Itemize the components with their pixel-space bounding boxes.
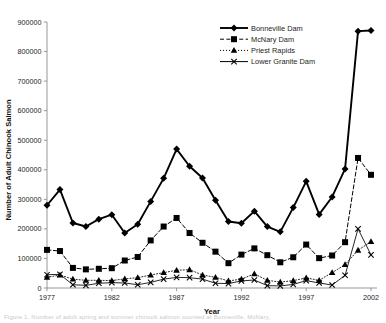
x-tick-label: 1997	[298, 293, 314, 302]
data-point	[57, 248, 63, 254]
data-point	[148, 237, 154, 243]
data-point	[174, 215, 180, 221]
data-point	[225, 260, 231, 266]
data-point	[303, 242, 309, 248]
y-tick-label: 300000	[18, 195, 42, 204]
figure-caption: Figure 1. Number of adult spring and sum…	[0, 309, 386, 323]
x-tick-label: 2002	[363, 293, 379, 302]
y-axis-title: Number of Adult Chinook Salmon	[4, 99, 13, 221]
data-point	[161, 224, 167, 230]
data-point	[44, 247, 50, 253]
x-tick-label: 1987	[169, 293, 185, 302]
data-point	[329, 252, 335, 258]
data-point	[290, 254, 296, 260]
y-tick-label: 200000	[18, 224, 42, 233]
y-tick-label: 600000	[18, 106, 42, 115]
data-point	[135, 254, 141, 260]
legend-marker	[231, 36, 237, 42]
data-point	[355, 155, 361, 161]
line-chart-canvas: 0100000200000300000400000500000600000700…	[0, 0, 386, 323]
y-tick-label: 700000	[18, 77, 42, 86]
y-tick-label: 900000	[18, 18, 42, 27]
x-tick-label: 1977	[39, 293, 55, 302]
data-point	[70, 265, 76, 271]
data-point	[264, 252, 270, 258]
data-point	[109, 265, 115, 271]
x-tick-label: 1982	[104, 293, 120, 302]
y-tick-label: 800000	[18, 47, 42, 56]
chart-figure: 0100000200000300000400000500000600000700…	[0, 0, 386, 323]
y-tick-label: 500000	[18, 136, 42, 145]
legend-label: Priest Rapids	[251, 46, 295, 55]
data-point	[187, 230, 193, 236]
x-tick-label: 1992	[233, 293, 249, 302]
data-point	[316, 255, 322, 261]
data-point	[251, 245, 257, 251]
legend-label: Bonneville Dam	[251, 24, 303, 33]
data-point	[96, 266, 102, 272]
y-tick-label: 0	[38, 284, 42, 293]
data-point	[83, 266, 89, 272]
legend-label: Lower Granite Dam	[251, 57, 315, 66]
legend-label: McNary Dam	[251, 35, 294, 44]
data-point	[122, 258, 128, 264]
y-tick-label: 100000	[18, 254, 42, 263]
y-tick-label: 400000	[18, 165, 42, 174]
data-point	[342, 239, 348, 245]
data-point	[200, 240, 206, 246]
data-point	[238, 252, 244, 258]
data-point	[368, 172, 374, 178]
data-point	[277, 259, 283, 265]
data-point	[212, 249, 218, 255]
